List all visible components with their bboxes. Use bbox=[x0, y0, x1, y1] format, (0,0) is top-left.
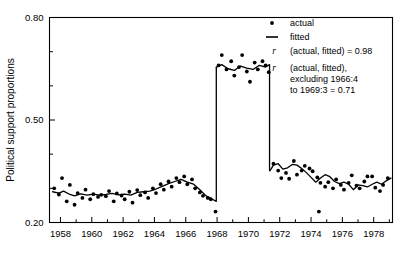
legend-label-correlation: (actual, fitted) = 0.98 bbox=[290, 46, 372, 56]
data-point bbox=[248, 80, 252, 84]
x-axis-tick-label: 1978 bbox=[363, 228, 384, 239]
data-point bbox=[146, 196, 150, 200]
data-point bbox=[362, 180, 366, 184]
data-point bbox=[311, 169, 315, 173]
data-point bbox=[303, 164, 307, 168]
y-axis-tick-label: 0.20 bbox=[25, 217, 44, 228]
data-point bbox=[143, 191, 147, 195]
chart-figure: 1958196019621964196619681970197219741976… bbox=[0, 0, 411, 264]
x-axis-tick-label: 1964 bbox=[144, 228, 165, 239]
data-point bbox=[347, 181, 351, 185]
data-point bbox=[378, 189, 382, 193]
data-point bbox=[232, 74, 236, 78]
data-point bbox=[170, 185, 174, 189]
data-point bbox=[355, 184, 359, 188]
data-point bbox=[253, 61, 257, 65]
data-point bbox=[323, 185, 327, 189]
legend-label-correlation-excluding: (actual, fitted), bbox=[290, 63, 347, 73]
data-point bbox=[334, 178, 338, 182]
legend-label-correlation-excluding: to 1969:3 = 0.71 bbox=[290, 85, 355, 95]
data-point bbox=[217, 63, 221, 67]
data-point bbox=[366, 174, 370, 178]
y-axis-tick-label: 0.80 bbox=[25, 12, 44, 23]
data-point bbox=[107, 189, 111, 193]
data-point bbox=[174, 176, 178, 180]
data-point bbox=[159, 182, 163, 186]
data-point bbox=[112, 199, 116, 203]
data-point bbox=[185, 182, 189, 186]
data-point bbox=[127, 190, 131, 194]
data-point bbox=[68, 183, 72, 187]
x-axis-tick-label: 1976 bbox=[332, 228, 353, 239]
data-point bbox=[209, 197, 213, 201]
data-point bbox=[120, 194, 124, 198]
x-axis-tick-label: 1962 bbox=[113, 228, 134, 239]
data-point bbox=[167, 180, 171, 184]
data-point bbox=[91, 192, 95, 196]
data-point bbox=[76, 191, 80, 195]
data-point bbox=[60, 176, 64, 180]
data-point bbox=[358, 186, 362, 190]
data-point bbox=[284, 171, 288, 175]
data-point bbox=[201, 194, 205, 198]
data-point bbox=[315, 176, 319, 180]
x-axis-tick-label: 1960 bbox=[81, 228, 102, 239]
data-point bbox=[52, 186, 56, 190]
legend-marker-actual bbox=[270, 21, 274, 25]
data-point bbox=[339, 183, 343, 187]
data-point bbox=[131, 201, 135, 205]
data-point bbox=[73, 203, 77, 207]
data-point bbox=[326, 180, 330, 184]
chart-svg: 1958196019621964196619681970197219741976… bbox=[0, 0, 411, 264]
data-point bbox=[135, 188, 139, 192]
data-point bbox=[292, 159, 296, 163]
data-point bbox=[214, 210, 218, 214]
data-point bbox=[370, 174, 374, 178]
x-axis-tick-label: 1974 bbox=[300, 228, 321, 239]
data-point bbox=[317, 210, 321, 214]
legend-label-actual: actual bbox=[290, 18, 314, 28]
data-point bbox=[57, 193, 61, 197]
data-point bbox=[386, 176, 390, 180]
data-point bbox=[198, 191, 202, 195]
data-point bbox=[138, 193, 142, 197]
data-point bbox=[308, 167, 312, 171]
data-point bbox=[264, 63, 268, 67]
data-point bbox=[84, 188, 88, 192]
fitted-line bbox=[216, 65, 269, 171]
y-axis-title: Political support proportions bbox=[5, 58, 16, 181]
legend-symbol-r: r bbox=[272, 46, 276, 56]
x-axis-tick-label: 1966 bbox=[175, 228, 196, 239]
legend-label-fitted: fitted bbox=[290, 32, 310, 42]
data-point bbox=[267, 70, 271, 74]
x-axis-tick-label: 1970 bbox=[238, 228, 259, 239]
data-point bbox=[319, 181, 323, 185]
data-point bbox=[80, 196, 84, 200]
data-point bbox=[99, 193, 103, 197]
data-point bbox=[331, 186, 335, 190]
data-point bbox=[104, 194, 108, 198]
data-point bbox=[178, 180, 182, 184]
x-axis-tick-label: 1972 bbox=[269, 228, 290, 239]
data-point bbox=[295, 173, 299, 177]
data-point bbox=[225, 68, 229, 72]
data-point bbox=[65, 199, 69, 203]
data-point bbox=[261, 59, 265, 63]
data-point bbox=[287, 177, 291, 181]
data-point bbox=[115, 192, 119, 196]
data-point bbox=[272, 162, 276, 166]
data-point bbox=[276, 169, 280, 173]
data-point bbox=[162, 188, 166, 192]
data-point bbox=[381, 183, 385, 187]
data-point bbox=[220, 53, 224, 57]
data-point bbox=[279, 176, 283, 180]
data-point bbox=[373, 186, 377, 190]
data-point bbox=[245, 70, 249, 74]
data-point bbox=[256, 68, 260, 72]
data-point bbox=[123, 197, 127, 201]
x-axis-tick-label: 1968 bbox=[207, 228, 228, 239]
data-point bbox=[151, 186, 155, 190]
data-point bbox=[190, 178, 194, 182]
data-point bbox=[300, 169, 304, 173]
legend-label-correlation-excluding: excluding 1966:4 bbox=[290, 74, 358, 84]
